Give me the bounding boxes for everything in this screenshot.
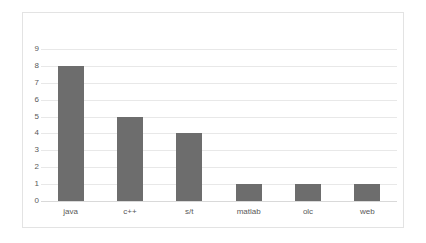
- bar-slot: [219, 49, 278, 201]
- bar[interactable]: [176, 133, 202, 201]
- bar-slot: [41, 49, 100, 201]
- x-tick-label: olc: [303, 207, 313, 216]
- x-tick-label: web: [360, 207, 375, 216]
- bar[interactable]: [117, 117, 143, 201]
- y-tick-label: 8: [25, 62, 39, 70]
- bar[interactable]: [58, 66, 84, 201]
- bar-slot: [160, 49, 219, 201]
- bar-slot: [338, 49, 397, 201]
- x-tick-label: matlab: [237, 207, 261, 216]
- y-tick-label: 4: [25, 129, 39, 137]
- y-tick-label: 2: [25, 163, 39, 171]
- x-tick-label: java: [63, 207, 78, 216]
- bar-chart: 0123456789 javac++s/tmatlabolcweb: [0, 0, 426, 243]
- plot-area: [41, 49, 397, 201]
- x-tick-label: s/t: [185, 207, 193, 216]
- y-tick-label: 9: [25, 45, 39, 53]
- y-tick-label: 1: [25, 180, 39, 188]
- bar-slot: [278, 49, 337, 201]
- bar[interactable]: [236, 184, 262, 201]
- chart-frame: 0123456789 javac++s/tmatlabolcweb: [22, 12, 404, 228]
- gridline: [41, 201, 397, 202]
- x-axis-category-labels: javac++s/tmatlabolcweb: [41, 207, 397, 221]
- bar-series: [41, 49, 397, 201]
- bar-slot: [100, 49, 159, 201]
- y-tick-label: 3: [25, 146, 39, 154]
- bar[interactable]: [354, 184, 380, 201]
- y-axis-tick-labels: 0123456789: [23, 49, 39, 201]
- x-tick-label: c++: [123, 207, 136, 216]
- y-tick-label: 5: [25, 113, 39, 121]
- y-tick-label: 7: [25, 79, 39, 87]
- bar[interactable]: [295, 184, 321, 201]
- y-tick-label: 6: [25, 96, 39, 104]
- y-tick-label: 0: [25, 197, 39, 205]
